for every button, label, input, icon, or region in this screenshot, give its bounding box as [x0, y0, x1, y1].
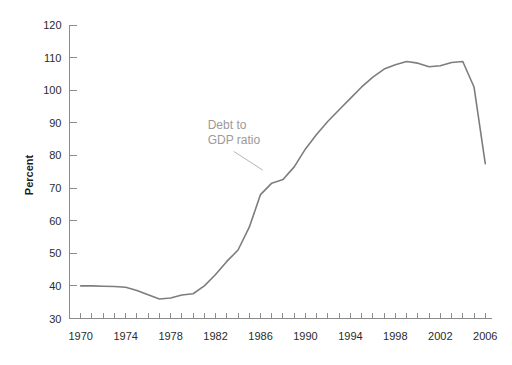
annotation-label-line1: Debt to [208, 118, 247, 132]
y-tick-label: 80 [49, 149, 61, 161]
y-tick-label: 100 [43, 84, 61, 96]
y-tick-label: 110 [44, 52, 62, 64]
chart-container: 30405060708090100110120 1970197419781982… [0, 0, 512, 365]
x-tick-label: 1998 [383, 330, 407, 342]
y-axis-tick-labels: 30405060708090100110120 [43, 19, 61, 325]
debt-to-gdp-line-chart: 30405060708090100110120 1970197419781982… [0, 0, 512, 365]
y-tick-label: 40 [49, 280, 61, 292]
axis-lines [70, 25, 493, 319]
x-axis-ticks [81, 313, 486, 319]
x-tick-label: 1994 [338, 330, 362, 342]
y-tick-label: 30 [49, 313, 61, 325]
y-tick-label: 50 [49, 247, 61, 259]
x-tick-label: 2006 [473, 330, 497, 342]
x-tick-label: 1974 [113, 330, 137, 342]
chart-annotation-group: Debt to GDP ratio [208, 118, 263, 170]
x-tick-label: 1986 [248, 330, 272, 342]
chart-axes [70, 25, 493, 319]
y-axis-title: Percent [23, 154, 35, 195]
annotation-label-line2: GDP ratio [208, 133, 261, 147]
series-line-debt-to-gdp-ratio [81, 62, 486, 299]
x-tick-label: 1970 [68, 330, 92, 342]
y-tick-label: 120 [43, 19, 61, 31]
x-tick-label: 1990 [293, 330, 317, 342]
y-tick-label: 90 [49, 117, 61, 129]
x-axis-tick-labels: 1970197419781982198619901994199820022006 [68, 330, 497, 342]
y-tick-label: 70 [49, 182, 61, 194]
y-axis-ticks [70, 25, 77, 319]
x-tick-label: 2002 [428, 330, 452, 342]
y-tick-label: 60 [49, 215, 61, 227]
x-tick-label: 1982 [203, 330, 227, 342]
data-series-group [81, 62, 486, 299]
x-tick-label: 1978 [158, 330, 182, 342]
annotation-leader-line [234, 151, 263, 170]
